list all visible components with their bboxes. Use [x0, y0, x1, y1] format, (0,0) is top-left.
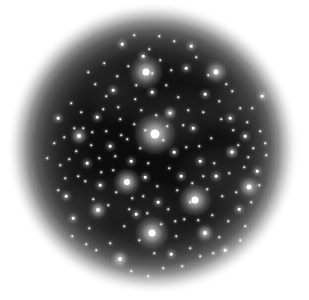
telescope-field-of-view — [0, 0, 309, 300]
sky-background — [0, 0, 309, 300]
image-canvas: Circular telescope field of view showing… — [0, 0, 309, 300]
